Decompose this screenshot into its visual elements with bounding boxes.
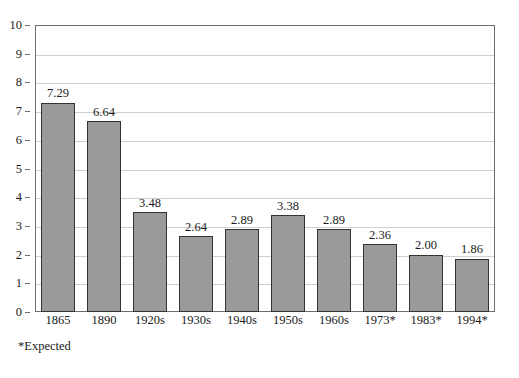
bar-value-label: 3.38 [277,200,299,213]
bar[interactable] [225,229,259,312]
y-axis-tick-label: 5 [16,162,22,175]
y-axis-tick-label: 3 [16,220,22,233]
bar[interactable] [317,229,351,312]
y-axis-tick-label: 10 [10,19,23,32]
bar[interactable] [179,236,213,312]
y-axis-tick-mark [25,140,30,141]
bar-chart: 012345678910 7.296.643.482.642.893.382.8… [0,0,519,378]
bar-value-label: 2.36 [369,229,391,242]
bar-value-label: 2.00 [415,239,437,252]
y-axis-tick-label: 2 [16,248,22,261]
y-axis-tick-label: 7 [16,105,22,118]
bar-group[interactable]: 3.48 [133,25,167,312]
bar[interactable] [363,244,397,312]
y-axis: 012345678910 [0,25,30,312]
bar-group[interactable]: 2.00 [409,25,443,312]
x-axis-tick-label: 1920s [135,314,165,327]
bar-group[interactable]: 3.38 [271,25,305,312]
bar-value-label: 2.89 [231,214,253,227]
y-axis-tick-label: 8 [16,76,22,89]
bar[interactable] [133,212,167,312]
y-axis-tick-mark [25,226,30,227]
y-axis-tick-mark [25,283,30,284]
bar[interactable] [41,103,75,312]
y-axis-tick-label: 9 [16,47,22,60]
x-axis-tick-label: 1973* [364,314,395,327]
bar-group[interactable]: 7.29 [41,25,75,312]
bar[interactable] [455,259,489,312]
bar[interactable] [87,121,121,312]
y-axis-tick-mark [25,82,30,83]
y-axis-tick-mark [25,169,30,170]
bar-group[interactable]: 2.89 [317,25,351,312]
bars-layer: 7.296.643.482.642.893.382.892.362.001.86 [35,25,495,312]
bar-value-label: 2.89 [323,214,345,227]
y-axis-tick-label: 6 [16,134,22,147]
y-axis-tick-mark [25,111,30,112]
bar-value-label: 3.48 [139,197,161,210]
y-axis-tick-mark [25,197,30,198]
x-axis-tick-label: 1890 [92,314,117,327]
chart-footnote: *Expected [18,340,71,353]
x-axis-tick-label: 1930s [181,314,211,327]
bar-group[interactable]: 2.89 [225,25,259,312]
bar-group[interactable]: 2.36 [363,25,397,312]
y-axis-tick-mark [25,255,30,256]
bar-value-label: 7.29 [47,87,69,100]
x-axis-tick-label: 1960s [319,314,349,327]
bar-group[interactable]: 6.64 [87,25,121,312]
y-axis-tick-label: 1 [16,277,22,290]
bar-value-label: 1.86 [461,243,483,256]
x-axis-tick-label: 1865 [46,314,71,327]
bar-value-label: 6.64 [93,106,115,119]
bar-group[interactable]: 2.64 [179,25,213,312]
x-axis-tick-label: 1983* [410,314,441,327]
x-axis-tick-label: 1940s [227,314,257,327]
y-axis-tick-label: 4 [16,191,22,204]
bar[interactable] [409,255,443,312]
x-axis: 186518901920s1930s1940s1950s1960s1973*19… [35,314,495,334]
bar[interactable] [271,215,305,312]
x-axis-tick-label: 1994* [456,314,487,327]
bar-group[interactable]: 1.86 [455,25,489,312]
bar-value-label: 2.64 [185,221,207,234]
y-axis-tick-mark [25,54,30,55]
y-axis-tick-mark [25,25,30,26]
x-axis-tick-label: 1950s [273,314,303,327]
y-axis-tick-label: 0 [16,306,22,319]
y-axis-tick-mark [25,312,30,313]
